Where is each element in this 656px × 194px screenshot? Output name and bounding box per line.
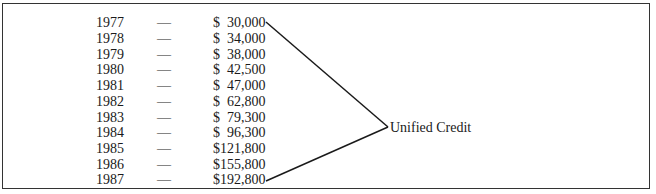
bracket-line-upper xyxy=(266,22,388,127)
bracket-line-lower xyxy=(266,127,388,181)
unified-credit-label: Unified Credit xyxy=(390,120,471,136)
bracket-lines xyxy=(0,0,656,194)
